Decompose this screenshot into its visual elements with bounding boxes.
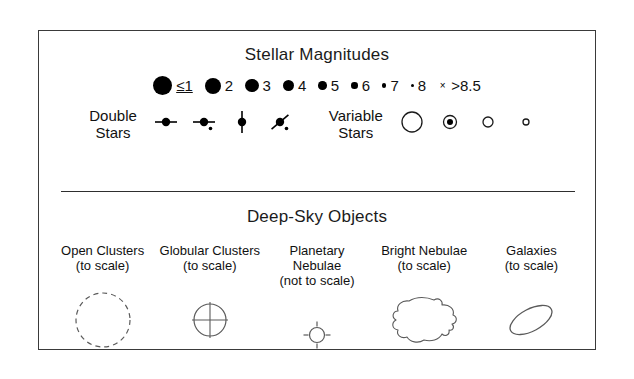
- magnitude-label: 2: [225, 77, 233, 94]
- deep-sky-object-label: Bright Nebulae(to scale): [381, 243, 467, 273]
- double-star-diagonal: [267, 109, 293, 139]
- magnitude-label: 6: [362, 77, 370, 94]
- variable-star-open-tiny: [514, 110, 538, 138]
- deep-sky-object-item: Galaxies(to scale): [478, 243, 585, 355]
- deep-sky-object-item: Globular Clusters(to scale): [156, 243, 263, 355]
- magnitude-item: 7: [382, 77, 399, 94]
- bright-nebula-irregular-outline: [387, 285, 461, 355]
- deep-sky-object-label-line: Bright Nebulae: [381, 243, 467, 258]
- magnitude-item: ≤1: [153, 76, 193, 95]
- variable-star-open-small: [476, 110, 500, 138]
- deep-sky-objects-row: Open Clusters(to scale)Globular Clusters…: [39, 243, 595, 370]
- variable-stars-symbol-group: [393, 110, 545, 138]
- double-star-vertical: [229, 109, 255, 139]
- deep-sky-object-label-line: (to scale): [505, 258, 558, 273]
- stellar-magnitudes-section: Stellar Magnitudes ≤12345678×>8.5 Double…: [39, 31, 595, 141]
- filled-circle-icon: [382, 83, 387, 88]
- magnitude-item: 3: [245, 77, 271, 94]
- deep-sky-object-label-line: Open Clusters: [61, 243, 144, 258]
- filled-circle-icon: [411, 84, 414, 87]
- variable-stars-label-line1: Variable: [329, 107, 383, 124]
- deep-sky-object-label-line: Galaxies: [505, 243, 558, 258]
- magnitude-label: >8.5: [451, 77, 481, 94]
- variable-star-filled-center: [438, 110, 462, 138]
- double-stars-symbol-group: [147, 109, 299, 139]
- section-divider: [61, 191, 575, 192]
- star-types-row: Double Stars Variable Stars: [39, 107, 595, 141]
- galaxy-ellipse: [500, 285, 562, 355]
- deep-sky-object-item: PlanetaryNebulae(not to scale): [263, 243, 370, 370]
- deep-sky-object-label: PlanetaryNebulae(not to scale): [279, 243, 354, 288]
- variable-star-open-large: [400, 110, 424, 138]
- magnitude-label: 7: [390, 77, 398, 94]
- double-stars-label-line1: Double: [89, 107, 137, 124]
- cross-mark-icon: ×: [438, 81, 447, 90]
- globular-cluster-crossed-circle: [187, 285, 233, 355]
- filled-circle-icon: [205, 78, 221, 94]
- deep-sky-object-label-line: Planetary: [279, 243, 354, 258]
- double-stars-label-line2: Stars: [89, 124, 137, 141]
- variable-stars-label-line2: Stars: [329, 124, 383, 141]
- deep-sky-object-label-line: (to scale): [381, 258, 467, 273]
- magnitude-item: 6: [351, 77, 370, 94]
- variable-stars-label: Variable Stars: [329, 107, 383, 141]
- legend-frame: Stellar Magnitudes ≤12345678×>8.5 Double…: [38, 30, 596, 350]
- planetary-nebula-circle-ticks: [297, 300, 337, 370]
- magnitude-item: 4: [283, 77, 306, 94]
- deep-sky-object-label-line: (not to scale): [279, 273, 354, 288]
- double-stars-label: Double Stars: [89, 107, 137, 141]
- magnitude-label: 3: [263, 77, 271, 94]
- deep-sky-object-label-line: Globular Clusters: [160, 243, 260, 258]
- deep-sky-object-label: Open Clusters(to scale): [61, 243, 144, 273]
- magnitude-label: 8: [418, 77, 426, 94]
- magnitude-label: 5: [331, 77, 339, 94]
- filled-circle-icon: [283, 80, 294, 91]
- double-star-horizontal: [153, 109, 179, 139]
- magnitude-item: 5: [318, 77, 339, 94]
- magnitude-label: ≤1: [176, 77, 193, 94]
- stellar-magnitudes-title: Stellar Magnitudes: [39, 45, 595, 65]
- filled-circle-icon: [153, 76, 172, 95]
- open-cluster-dashed-circle: [70, 285, 136, 355]
- deep-sky-object-label-line: (to scale): [160, 258, 260, 273]
- deep-sky-object-label: Galaxies(to scale): [505, 243, 558, 273]
- filled-circle-icon: [245, 79, 259, 93]
- deep-sky-object-label: Globular Clusters(to scale): [160, 243, 260, 273]
- double-star-horizontal-companion: [191, 109, 217, 139]
- deep-sky-object-item: Bright Nebulae(to scale): [371, 243, 478, 355]
- deep-sky-objects-title: Deep-Sky Objects: [39, 207, 595, 227]
- filled-circle-icon: [351, 82, 358, 89]
- filled-circle-icon: [318, 81, 327, 90]
- deep-sky-object-item: Open Clusters(to scale): [49, 243, 156, 355]
- magnitude-item: 8: [411, 77, 426, 94]
- deep-sky-object-label-line: (to scale): [61, 258, 144, 273]
- magnitude-label: 4: [298, 77, 306, 94]
- magnitude-item: ×>8.5: [438, 77, 481, 94]
- magnitude-item: 2: [205, 77, 233, 94]
- magnitude-scale-row: ≤12345678×>8.5: [39, 76, 595, 95]
- deep-sky-object-label-line: Nebulae: [279, 258, 354, 273]
